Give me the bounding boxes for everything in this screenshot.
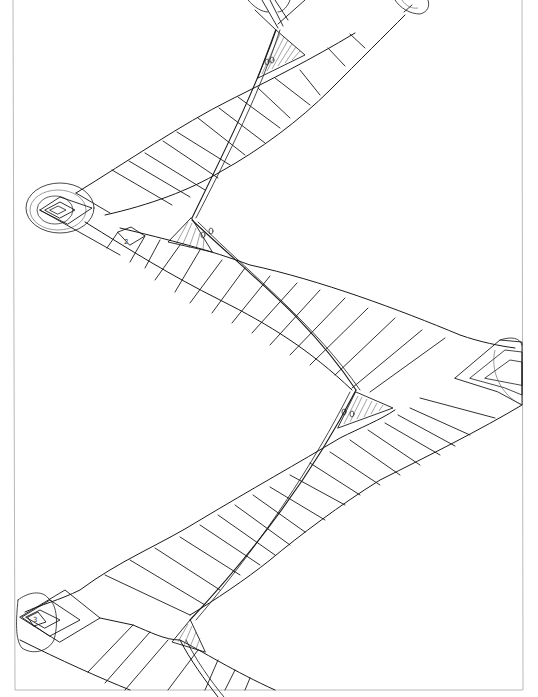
band-3 [25,398,522,615]
band-4 [20,618,275,690]
band-1 [76,15,405,215]
crossing-3 [338,392,393,428]
crossing-2 [168,218,213,252]
spine [180,30,360,697]
paper-frame [13,0,523,690]
label-bottom-left: 3 [33,616,37,624]
band-2: 2 [85,222,515,392]
node-left-rings [26,183,120,255]
sketch-canvas: 2 [0,0,538,697]
node-top-center [248,0,305,30]
node-top-right [395,0,429,14]
sketch-sheet: 2 [0,0,538,697]
label-upper-left: 2 [124,238,128,246]
crossing-4 [172,620,205,652]
